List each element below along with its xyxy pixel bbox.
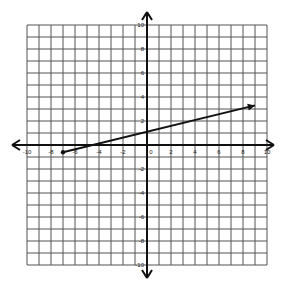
x-tick-label: 4 xyxy=(193,149,197,155)
x-tick-label: 0 xyxy=(149,149,153,155)
x-tick-label: 8 xyxy=(241,149,245,155)
y-tick-label: -10 xyxy=(135,262,144,268)
y-tick-label: -4 xyxy=(139,190,145,196)
x-tick-label: 2 xyxy=(169,149,173,155)
y-tick-label: 10 xyxy=(137,22,144,28)
x-tick-label: -2 xyxy=(120,149,126,155)
x-tick-label: -4 xyxy=(96,149,102,155)
x-tick-label: -10 xyxy=(23,149,32,155)
line-start-point-icon xyxy=(61,150,65,154)
y-tick-label: -6 xyxy=(139,214,145,220)
y-tick-label: -8 xyxy=(139,238,145,244)
plotted-line xyxy=(61,104,255,155)
coordinate-plane: -10-8-6-4-20246810 108642-2-4-6-8-10 xyxy=(0,0,286,290)
x-tick-label: 10 xyxy=(264,149,271,155)
x-tick-label: 6 xyxy=(217,149,221,155)
y-tick-label: -2 xyxy=(139,166,145,172)
x-tick-label: -8 xyxy=(48,149,54,155)
